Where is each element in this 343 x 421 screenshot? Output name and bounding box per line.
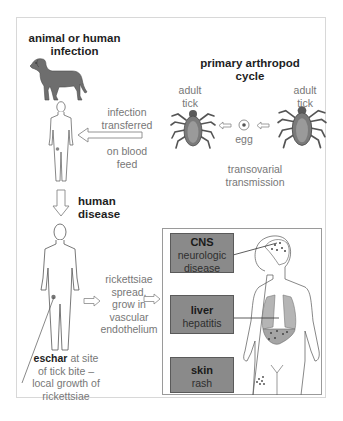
eschar-term: eschar <box>34 352 68 364</box>
tick-left-line1: adult <box>170 84 210 97</box>
transfer-label-bottom: on blood feed <box>92 145 162 170</box>
liver-title: liver <box>171 304 233 317</box>
spread-line1: rickettsiae <box>98 273 160 286</box>
eschar-label-line2: of tick bite – <box>26 365 106 378</box>
human-disease-line1: human <box>78 195 128 208</box>
transovarial-line1: transovarial <box>210 163 300 176</box>
cns-subtitle-line1: neurologic <box>171 249 233 262</box>
human-disease-line2: disease <box>78 208 128 221</box>
blood-feed-line1: on blood <box>92 145 162 158</box>
skin-subtitle: rash <box>171 377 233 390</box>
skin-title: skin <box>171 364 233 377</box>
eschar-label-line1: eschar at site <box>26 352 106 365</box>
down-arrow-icon <box>52 189 70 217</box>
tick-right-icon <box>277 104 327 152</box>
animal-infection-title-line1: animal or human <box>22 32 127 45</box>
liver-subtitle: hepatitis <box>171 317 233 330</box>
animal-infection-title: animal or human infection <box>22 32 127 58</box>
human-disease-title: human disease <box>78 195 128 221</box>
egg-icon <box>238 119 250 131</box>
tick-left-label: adult tick <box>170 84 210 109</box>
arthropod-title-line1: primary arthropod <box>190 57 310 70</box>
liver-label-box: liver hepatitis <box>170 295 234 334</box>
blood-feed-line2: feed <box>92 158 162 171</box>
cns-subtitle-line2: disease <box>171 262 233 275</box>
left-arrow-icon <box>77 127 143 143</box>
spread-line5: endothelium <box>98 323 160 336</box>
tick-left-icon <box>170 108 216 152</box>
eschar-label-line4: rickettsiae <box>26 390 106 403</box>
liver-leader-line <box>233 315 283 321</box>
cns-leader-line <box>233 239 283 259</box>
tick-right-line1: adult <box>285 84 325 97</box>
skin-label-box: skin rash <box>170 357 234 393</box>
transovarial-line2: transmission <box>210 176 300 189</box>
dog-icon <box>28 56 88 102</box>
eschar-at-site: at site <box>70 352 98 364</box>
right-arrow-icon-2 <box>143 293 161 305</box>
eschar-label-line3: local growth of <box>26 377 106 390</box>
left-arrow-small-icon <box>218 121 232 130</box>
eschar-label: eschar at site of tick bite – local grow… <box>26 352 106 402</box>
cns-title: CNS <box>171 236 233 249</box>
egg-label: egg <box>229 133 259 146</box>
disease-panel: CNS neurologic disease liver hepatitis s… <box>162 228 322 395</box>
transfer-label-line1: infection <box>92 106 162 119</box>
arthropod-cycle-title: primary arthropod cycle <box>190 57 310 83</box>
human-figure-infected <box>46 100 76 183</box>
spread-line4: vascular <box>98 311 160 324</box>
cns-label-box: CNS neurologic disease <box>170 233 234 273</box>
left-arrow-small-icon-2 <box>256 121 270 130</box>
arthropod-title-line2: cycle <box>190 70 310 83</box>
transovarial-label: transovarial transmission <box>210 163 300 188</box>
